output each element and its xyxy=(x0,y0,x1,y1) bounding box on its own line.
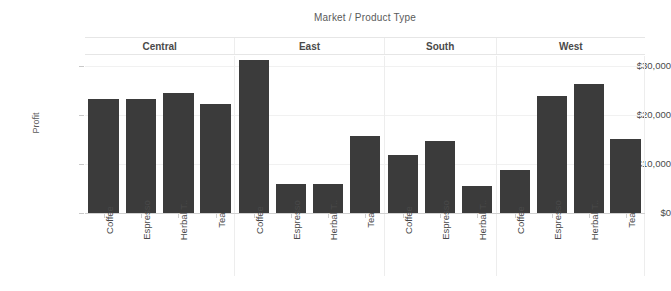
y-tick-mark-1 xyxy=(79,164,84,165)
x-tick-label: Herbal T.. xyxy=(178,200,189,240)
panel-west xyxy=(496,56,645,213)
bar-slot xyxy=(347,56,384,213)
x-slot: Espresso xyxy=(422,214,459,276)
bar-slot xyxy=(497,56,534,213)
panel-header-central: Central xyxy=(85,38,234,54)
panel-central xyxy=(85,56,234,213)
x-panel-east: CoffeeEspressoHerbal T..Tea xyxy=(234,214,383,276)
x-slot: Herbal T.. xyxy=(570,214,607,276)
bar-east-tea[interactable] xyxy=(350,136,380,213)
x-slot: Espresso xyxy=(533,214,570,276)
x-panel-south: CoffeeEspressoHerbal T.. xyxy=(384,214,496,276)
x-slot: Tea xyxy=(607,214,644,276)
bar-slot xyxy=(422,56,459,213)
x-tick-label: Tea xyxy=(365,212,376,227)
x-tick-label: Tea xyxy=(216,212,227,227)
x-tick-label: Tea xyxy=(626,212,637,227)
x-tick-label: Coffee xyxy=(403,206,414,234)
bar-west-tea[interactable] xyxy=(610,139,640,213)
x-slot: Herbal T.. xyxy=(309,214,346,276)
x-slot: Coffee xyxy=(497,214,534,276)
x-panel-central: CoffeeEspressoHerbal T..Tea xyxy=(85,214,234,276)
panel-header-west: West xyxy=(496,38,645,54)
bar-slot xyxy=(85,56,122,213)
x-tick-label: Coffee xyxy=(515,206,526,234)
x-tick-label: Espresso xyxy=(440,200,451,240)
panel-east xyxy=(234,56,383,213)
bar-slot xyxy=(385,56,422,213)
x-slot: Coffee xyxy=(385,214,422,276)
x-slot: Tea xyxy=(347,214,384,276)
bar-central-tea[interactable] xyxy=(200,104,231,213)
x-slot: Espresso xyxy=(272,214,309,276)
bar-slot xyxy=(122,56,159,213)
x-slot: Coffee xyxy=(235,214,272,276)
bar-slot xyxy=(160,56,197,213)
panel-south xyxy=(384,56,496,213)
x-axis-labels: CoffeeEspressoHerbal T..TeaCoffeeEspress… xyxy=(85,214,645,276)
bar-central-coffee[interactable] xyxy=(88,99,119,213)
bar-slot xyxy=(607,56,644,213)
y-axis-title: Profit xyxy=(31,83,41,163)
bar-slot xyxy=(533,56,570,213)
x-tick-label: Herbal T.. xyxy=(589,200,600,240)
x-slot: Herbal T.. xyxy=(160,214,197,276)
y-tick-mark-3 xyxy=(79,66,84,67)
bar-slot xyxy=(197,56,234,213)
x-slot: Espresso xyxy=(122,214,159,276)
x-tick-label: Herbal T.. xyxy=(477,200,488,240)
x-tick-label: Espresso xyxy=(291,200,302,240)
x-panel-west: CoffeeEspressoHerbal T..Tea xyxy=(496,214,645,276)
x-slot: Herbal T.. xyxy=(459,214,496,276)
y-tick-mark-0 xyxy=(79,213,84,214)
x-tick-label: Coffee xyxy=(254,206,265,234)
plot-area xyxy=(85,56,645,213)
panel-header-east: East xyxy=(234,38,383,54)
x-tick-label: Coffee xyxy=(104,206,115,234)
bar-west-herbalt[interactable] xyxy=(574,84,604,213)
bar-slot xyxy=(235,56,272,213)
bar-slot xyxy=(570,56,607,213)
panel-header-row: CentralEastSouthWest xyxy=(85,37,645,55)
panel-header-south: South xyxy=(384,38,496,54)
bar-slot xyxy=(309,56,346,213)
bar-central-espresso[interactable] xyxy=(126,99,157,213)
bar-slot xyxy=(459,56,496,213)
x-slot: Tea xyxy=(197,214,234,276)
bar-west-espresso[interactable] xyxy=(537,96,567,213)
x-slot: Coffee xyxy=(85,214,122,276)
bar-central-herbalt[interactable] xyxy=(163,93,194,213)
bar-south-coffee[interactable] xyxy=(388,155,418,213)
bar-slot xyxy=(272,56,309,213)
y-tick-mark-2 xyxy=(79,115,84,116)
chart-facet-title: Market / Product Type xyxy=(85,12,645,23)
x-tick-label: Espresso xyxy=(141,200,152,240)
x-tick-label: Herbal T.. xyxy=(328,200,339,240)
x-tick-label: Espresso xyxy=(552,200,563,240)
bar-east-coffee[interactable] xyxy=(239,60,269,213)
